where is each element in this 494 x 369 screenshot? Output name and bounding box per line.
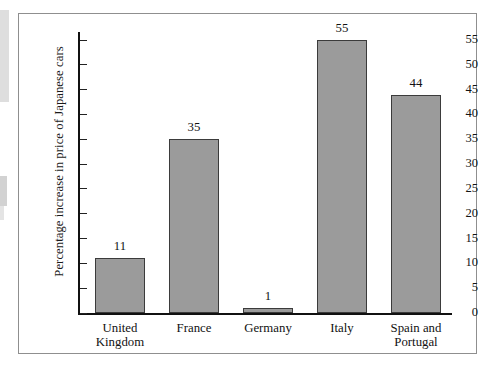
x-axis-line xyxy=(78,313,452,315)
y-axis-tick-label: 55 xyxy=(426,33,478,46)
y-axis-title: Percentage increase in price of Japanese… xyxy=(52,32,67,292)
figure-frame: Percentage increase in price of Japanese… xyxy=(18,13,477,354)
bar-value-label: 44 xyxy=(369,77,463,90)
y-axis-tick-mark xyxy=(80,238,87,239)
bar-value-label: 55 xyxy=(295,22,389,35)
y-axis-tick-mark xyxy=(80,313,87,314)
y-axis-tick-label: 50 xyxy=(426,58,478,71)
scan-artifact xyxy=(0,176,7,206)
y-axis-tick-mark xyxy=(80,114,87,115)
y-axis-tick-mark xyxy=(80,288,87,289)
x-axis-category-line: Kingdom xyxy=(71,335,169,349)
scan-artifact xyxy=(0,10,9,102)
y-axis-tick-mark xyxy=(80,89,87,90)
y-axis-line xyxy=(78,32,80,315)
scan-artifact xyxy=(0,206,4,220)
bar xyxy=(317,40,367,313)
x-axis-category-line: Spain and xyxy=(367,321,465,335)
bar-value-label: 1 xyxy=(221,290,315,303)
y-axis-tick-mark xyxy=(80,64,87,65)
x-axis-category-label: Spain andPortugal xyxy=(367,321,465,350)
bar xyxy=(243,308,293,313)
bar-value-label: 11 xyxy=(73,240,167,253)
x-axis-category-line: Portugal xyxy=(367,335,465,349)
y-axis-tick-mark xyxy=(80,188,87,189)
bar xyxy=(95,258,145,313)
y-axis-tick-mark xyxy=(80,40,87,41)
bar-value-label: 35 xyxy=(147,121,241,134)
y-axis-tick-mark xyxy=(80,263,87,264)
y-axis-tick-mark xyxy=(80,139,87,140)
bar xyxy=(391,95,441,313)
bar-chart-plot-area: Percentage increase in price of Japanese… xyxy=(19,14,478,355)
y-axis-tick-mark xyxy=(80,164,87,165)
bar xyxy=(169,139,219,313)
y-axis-tick-mark xyxy=(80,213,87,214)
